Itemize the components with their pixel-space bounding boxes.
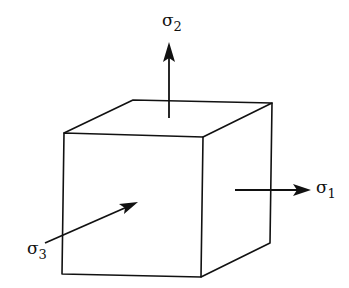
sigma1-arrow <box>235 184 311 196</box>
sigma1-symbol: σ <box>316 177 328 197</box>
sigma2-label: σ2 <box>162 12 182 33</box>
cube-top-face <box>64 100 272 137</box>
sigma2-subscript: 2 <box>174 19 182 34</box>
sigma3-symbol: σ <box>27 238 39 258</box>
sigma3-label: σ3 <box>27 240 47 261</box>
sigma1-subscript: 1 <box>328 186 336 201</box>
stress-cube-diagram <box>0 0 349 288</box>
sigma2-symbol: σ <box>162 10 174 30</box>
sigma1-label: σ1 <box>316 179 336 200</box>
sigma3-subscript: 3 <box>39 247 47 262</box>
sigma2-arrow <box>163 42 175 118</box>
sigma3-arrow <box>45 202 138 243</box>
